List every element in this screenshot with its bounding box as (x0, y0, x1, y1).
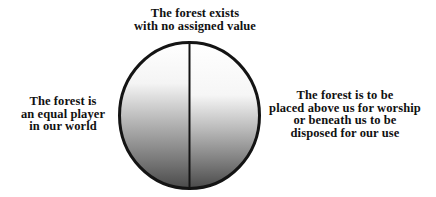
label-left: The forest is an equal player in our wor… (8, 95, 118, 133)
label-left-line-3: in our world (8, 120, 118, 133)
label-right-line-4: disposed for our use (262, 127, 428, 140)
label-right: The forest is to be placed above us for … (262, 89, 428, 139)
label-right-line-1: The forest is to be (262, 89, 428, 102)
label-top: The forest exists with no assigned value (110, 7, 280, 32)
label-top-line-2: with no assigned value (110, 20, 280, 33)
label-left-line-1: The forest is (8, 95, 118, 108)
label-top-line-1: The forest exists (110, 7, 280, 20)
label-right-line-3: or beneath us to be (262, 114, 428, 127)
